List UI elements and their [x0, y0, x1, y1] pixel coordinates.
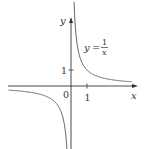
hyperbola-chart: y x 0 1 1 y = 1 x — [0, 0, 148, 149]
equation-denominator: x — [102, 48, 107, 57]
y-axis-arrow-icon — [69, 17, 73, 23]
x-axis-arrow-icon — [132, 84, 138, 88]
equation-label: y = 1 x — [83, 38, 108, 57]
x-tick-label-1: 1 — [85, 92, 91, 103]
equation-numerator: 1 — [102, 38, 107, 47]
equation-equals: = — [92, 42, 100, 53]
curve-branch-negative — [9, 90, 68, 149]
curve-y-equals-1-over-x — [9, 2, 132, 149]
origin-label: 0 — [63, 89, 69, 100]
x-axis-label: x — [131, 90, 137, 101]
y-tick-label-1: 1 — [61, 65, 67, 76]
y-axis-label: y — [59, 15, 66, 26]
equation-lhs: y — [83, 42, 90, 53]
